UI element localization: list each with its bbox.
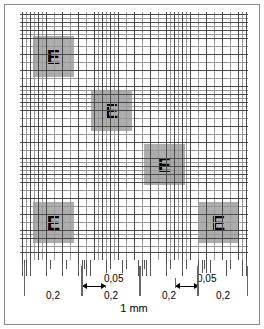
e-square-upper-middle: E — [91, 90, 132, 131]
ruler-tick-long — [90, 260, 91, 276]
grid-line-horizontal-minor — [20, 170, 248, 171]
ruler-tick-short — [230, 260, 231, 269]
ruler-tick-long — [26, 260, 27, 276]
grid-line-horizontal-major — [20, 102, 248, 103]
ruler-tick-long — [30, 260, 31, 276]
grid-line-horizontal-major — [20, 14, 248, 15]
ruler-tick-short — [66, 260, 67, 269]
grid-line-horizontal-major — [20, 198, 248, 199]
ruler-tick-short — [50, 260, 51, 269]
e-square-bottom-left: E — [33, 202, 74, 243]
ruler-tick-long — [142, 260, 143, 276]
ruler-tick-long — [242, 260, 243, 276]
grid-line-vertical-major — [78, 12, 79, 260]
ruler-tick-short — [144, 260, 145, 269]
grid-line-vertical-major — [102, 12, 103, 260]
grid-line-vertical-major — [174, 12, 175, 260]
grid-line-horizontal-minor — [20, 18, 248, 19]
grid-line-vertical-minor — [106, 12, 107, 260]
grid-line-vertical-major — [150, 12, 151, 260]
grid-line-horizontal-minor — [20, 26, 248, 27]
grid-line-horizontal-major — [20, 166, 248, 167]
grid-line-horizontal-major — [20, 182, 248, 183]
dimension-extension-line — [198, 266, 199, 296]
total-dimension: 1 mm — [20, 303, 248, 317]
grid-line-horizontal-minor — [20, 118, 248, 119]
grid-line-horizontal-major — [20, 252, 248, 253]
grid-line-horizontal-major — [20, 158, 248, 159]
grid-line-vertical-minor — [142, 12, 143, 260]
dimension-extension-line — [247, 266, 248, 296]
grid-line-horizontal-major — [20, 94, 248, 95]
fine-dimension-label: 0,05 — [197, 273, 216, 285]
ruler-tick-long — [226, 260, 227, 276]
figure-root: EEEEE 0,050,05 0,20,20,20,2 1 mm — [0, 0, 264, 329]
grid-line-horizontal-minor — [20, 78, 248, 79]
e-square-lower-middle: E — [144, 144, 185, 185]
grid-line-vertical-minor — [98, 12, 99, 260]
grid-line-vertical-minor — [170, 12, 171, 260]
ruler-tick-long — [182, 260, 183, 276]
ruler-tick-long — [150, 260, 151, 276]
ruler-tick-long — [86, 260, 87, 276]
grid-line-vertical-minor — [126, 12, 127, 260]
grid-line-horizontal-minor — [20, 98, 248, 99]
grid-line-vertical-major — [190, 12, 191, 260]
grid-line-vertical-minor — [178, 12, 179, 260]
e-cell-label: E — [105, 101, 118, 121]
grid-line-horizontal-minor — [20, 90, 248, 91]
e-square-top-left: E — [33, 36, 74, 77]
grid-line-horizontal-major — [20, 174, 248, 175]
fine-dimension-label: 0,05 — [104, 273, 123, 285]
e-cell-label: E — [47, 213, 60, 233]
grid-line-vertical-major — [110, 12, 111, 260]
e-cell-label: E — [212, 213, 225, 233]
grid-line-vertical-major — [134, 12, 135, 260]
grid-line-vertical-minor — [158, 12, 159, 260]
grid-line-vertical-major — [22, 12, 23, 260]
ruler-tick-long — [22, 260, 23, 276]
ruler-tick-long — [62, 260, 63, 276]
ruler-tick-short — [126, 260, 127, 269]
ruler-tick-short — [110, 260, 111, 269]
grid-line-vertical-minor — [186, 12, 187, 260]
grid-line-horizontal-major — [20, 22, 248, 23]
grid-line-vertical-major — [246, 12, 247, 260]
grid-line-horizontal-minor — [20, 134, 248, 135]
grid-line-horizontal-major — [20, 110, 248, 111]
grid-line-horizontal-minor — [20, 150, 248, 151]
dimension-extension-line — [24, 266, 25, 296]
grid-line-vertical-minor — [26, 12, 27, 260]
grid-line-horizontal-minor — [20, 106, 248, 107]
grid-line-horizontal-major — [20, 142, 248, 143]
ruler-tick-long — [46, 260, 47, 276]
ruler-tick-short — [84, 260, 85, 269]
grid-line-horizontal-minor — [20, 190, 248, 191]
total-dimension-label: 1 mm — [20, 301, 248, 315]
grid-line-horizontal-minor — [20, 178, 248, 179]
dimension-extension-line — [140, 266, 141, 296]
grid-line-horizontal-minor — [20, 246, 248, 247]
grid-line-vertical-minor — [86, 12, 87, 260]
grid-line-vertical-major — [166, 12, 167, 260]
dimension-extension-line — [82, 266, 83, 296]
ruler-tick-long — [166, 260, 167, 276]
grid-line-vertical-minor — [242, 12, 243, 260]
grid-line-horizontal-minor — [20, 162, 248, 163]
grid-line-horizontal-minor — [20, 34, 248, 35]
grid-line-horizontal-major — [20, 86, 248, 87]
grid-line-vertical-major — [30, 12, 31, 260]
grid-plate: EEEEE — [20, 12, 248, 260]
ruler-tick-short — [186, 260, 187, 269]
grid-line-vertical-minor — [114, 12, 115, 260]
grid-line-vertical-major — [94, 12, 95, 260]
ruler-tick-long — [146, 260, 147, 276]
ruler-tick-short — [204, 260, 205, 269]
grid-line-vertical-major — [118, 12, 119, 260]
ruler-tick-long — [78, 260, 79, 276]
e-square-bottom-right: E — [198, 202, 239, 243]
ruler-tick-short — [170, 260, 171, 269]
grid-line-horizontal-major — [20, 126, 248, 127]
grid-line-horizontal-major — [20, 30, 248, 31]
e-cell-label: E — [47, 47, 60, 67]
